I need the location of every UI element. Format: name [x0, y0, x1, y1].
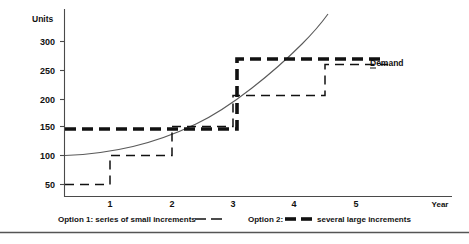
option1-step-line: [65, 65, 388, 185]
x-tick-label-5: 5: [353, 199, 358, 209]
demand-curve: [65, 14, 328, 156]
x-tick-label-3: 3: [230, 199, 235, 209]
x-tick-label-1: 1: [107, 199, 112, 209]
legend-option2-prefix: Option 2:: [248, 215, 283, 224]
legend-option1-label: Option 1: series of small increments: [58, 215, 196, 224]
x-tick-label-4: 4: [291, 199, 296, 209]
chart-axes: [60, 9, 452, 197]
y-axis-title: Units: [32, 14, 54, 24]
y-tick-label-300: 300: [40, 37, 55, 47]
y-tick-label-100: 100: [40, 151, 55, 161]
chart-legend: Option 1: series of small increments Opt…: [58, 215, 411, 224]
x-axis-title: Year: [432, 200, 449, 209]
y-tick-label-150: 150: [40, 122, 55, 132]
y-tick-label-250: 250: [40, 66, 55, 76]
y-tick-label-200: 200: [40, 95, 55, 105]
x-tick-label-2: 2: [169, 199, 174, 209]
capacity-expansion-chart: Units Year 300 250 200 150 100 50 1 2 3 …: [0, 0, 469, 244]
axis-lines: [65, 9, 453, 197]
y-tick-label-50: 50: [45, 180, 55, 190]
legend-option2-label: several large increments: [317, 215, 411, 224]
option2-step-line: [65, 59, 385, 129]
chart-figure: Units Year 300 250 200 150 100 50 1 2 3 …: [0, 0, 469, 244]
